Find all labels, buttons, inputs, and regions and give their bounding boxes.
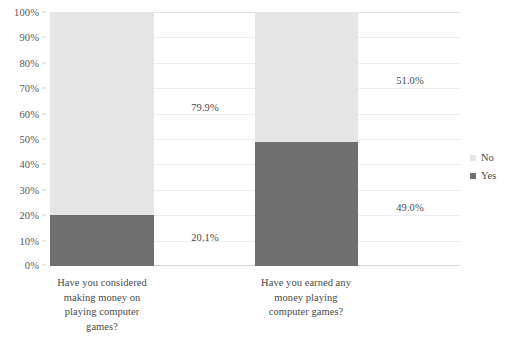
legend-label-yes: Yes <box>481 170 496 181</box>
legend-item-no[interactable]: No <box>470 150 496 165</box>
y-tick-label-10: 10% <box>19 235 39 246</box>
bar-segment-yes-earned <box>255 142 358 267</box>
plot-area <box>50 12 460 266</box>
y-tick-label-40: 40% <box>19 159 39 170</box>
stacked-bar-chart: 100% 90% 80% 70% 60% 50% 40% 30% 20% 10%… <box>0 0 521 341</box>
y-tick-mark-20 <box>42 215 46 216</box>
y-tick-mark-40 <box>42 164 46 165</box>
legend-label-no: No <box>481 152 494 163</box>
category-label-earned: Have you earned any money playing comput… <box>246 276 366 320</box>
y-tick-mark-60 <box>42 113 46 114</box>
legend-swatch-yes-icon <box>470 173 476 179</box>
bar-segment-no-earned <box>255 12 358 142</box>
y-tick-mark-80 <box>42 62 46 63</box>
y-tick-label-30: 30% <box>19 184 39 195</box>
category-label-line: Have you earned any <box>246 276 366 291</box>
category-label-line: playing computer <box>42 305 162 320</box>
y-tick-mark-50 <box>42 139 46 140</box>
bar-segment-yes-considered <box>50 215 154 266</box>
bar-segment-no-considered <box>50 12 154 215</box>
y-tick-mark-70 <box>42 88 46 89</box>
category-label-considered: Have you considered making money on play… <box>42 276 162 334</box>
y-tick-label-20: 20% <box>19 210 39 221</box>
y-tick-mark-100 <box>42 12 46 13</box>
legend-item-yes[interactable]: Yes <box>470 168 496 183</box>
y-tick-label-0: 0% <box>25 260 39 271</box>
y-tick-label-70: 70% <box>19 83 39 94</box>
y-tick-mark-30 <box>42 189 46 190</box>
y-tick-label-80: 80% <box>19 57 39 68</box>
data-label-no-considered: 79.9% <box>191 102 219 113</box>
y-tick-mark-0 <box>42 265 46 266</box>
bar-group-considered <box>50 12 154 266</box>
legend: No Yes <box>470 150 496 186</box>
bar-group-earned <box>255 12 358 266</box>
category-label-line: games? <box>42 320 162 335</box>
data-label-no-earned: 51.0% <box>396 75 424 86</box>
y-tick-label-90: 90% <box>19 32 39 43</box>
y-tick-mark-90 <box>42 37 46 38</box>
category-label-line: Have you considered <box>42 276 162 291</box>
y-tick-label-100: 100% <box>14 7 39 18</box>
category-label-line: making money on <box>42 291 162 306</box>
category-label-line: money playing <box>246 291 366 306</box>
y-tick-mark-10 <box>42 240 46 241</box>
data-label-yes-considered: 20.1% <box>191 232 219 243</box>
category-label-line: computer games? <box>246 305 366 320</box>
y-tick-label-60: 60% <box>19 108 39 119</box>
legend-swatch-no-icon <box>470 155 476 161</box>
y-tick-label-50: 50% <box>19 134 39 145</box>
y-axis: 100% 90% 80% 70% 60% 50% 40% 30% 20% 10%… <box>0 12 46 266</box>
data-label-yes-earned: 49.0% <box>396 202 424 213</box>
